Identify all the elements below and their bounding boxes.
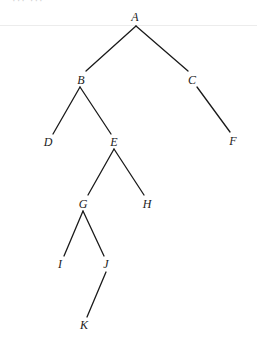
node-k: K [80, 319, 88, 331]
node-b: B [77, 74, 84, 86]
edge-b-d [53, 87, 80, 134]
node-e: E [110, 136, 117, 148]
edge-e-h [114, 149, 144, 195]
binary-tree-diagram: ··· ··· A B C D E F G H I J K [0, 0, 257, 341]
edge-c-f [197, 87, 230, 132]
node-a: A [131, 11, 138, 23]
edge-g-i [64, 211, 83, 256]
edge-a-c [136, 26, 188, 71]
node-d: D [44, 136, 53, 148]
node-c: C [188, 74, 196, 86]
tree-edges [0, 0, 257, 341]
edge-a-b [86, 26, 136, 71]
edge-e-g [88, 149, 114, 195]
node-j: J [103, 258, 108, 270]
node-i: I [58, 258, 62, 270]
node-g: G [79, 198, 88, 210]
node-f: F [229, 135, 236, 147]
node-h: H [143, 198, 152, 210]
edge-g-j [83, 211, 104, 256]
edge-j-k [87, 272, 106, 317]
edge-b-e [80, 87, 111, 134]
